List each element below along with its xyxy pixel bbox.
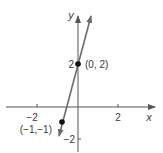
x-tick-label-2: 2 (115, 112, 121, 123)
y-axis-label: y (67, 9, 75, 21)
coordinate-graph: −2 2 2 −2 x y (0, 2) (−1,−1) (0, 0, 163, 153)
point-neg1-neg1 (59, 119, 65, 125)
point-0-2 (75, 61, 81, 67)
y-tick-label-2: 2 (68, 59, 74, 70)
y-tick-label-neg2: −2 (64, 134, 76, 145)
x-tick-label-neg2: −2 (26, 112, 38, 123)
point-label-neg1-neg1: (−1,−1) (20, 124, 52, 135)
point-label-0-2: (0, 2) (85, 59, 108, 70)
x-axis-label: x (145, 111, 152, 123)
plotted-line (59, 16, 91, 136)
